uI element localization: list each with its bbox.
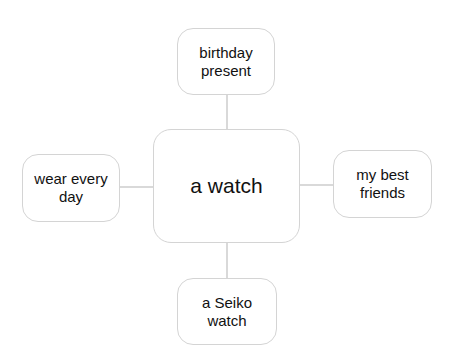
node-right: my best friends — [333, 150, 432, 218]
node-bottom-label: a Seiko watch — [197, 294, 257, 329]
connector-top — [226, 95, 228, 130]
node-center-label: a watch — [190, 174, 262, 199]
connector-bottom — [226, 243, 228, 278]
connector-right — [300, 184, 333, 186]
node-left: wear every day — [22, 154, 120, 222]
node-right-label: my best friends — [353, 166, 413, 201]
node-bottom: a Seiko watch — [177, 278, 277, 345]
node-top-label: birthday present — [191, 44, 261, 79]
node-center: a watch — [153, 129, 300, 243]
node-left-label: wear every day — [31, 170, 111, 205]
connector-left — [120, 186, 153, 188]
node-top: birthday present — [177, 28, 275, 95]
